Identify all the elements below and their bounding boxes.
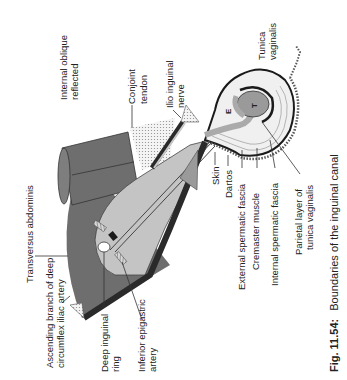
- label-dartos: Dartos: [223, 170, 234, 198]
- deep-inguinal-ring: [98, 242, 110, 252]
- svg-text:tendon: tendon: [138, 75, 149, 104]
- svg-text:reflected: reflected: [69, 64, 80, 100]
- svg-text:Fig. 11.54: Boundaries o: Fig. 11.54: Boundaries of the inguinal c…: [324, 154, 341, 372]
- label-external-spermatic-fascia: External spermatic fascia: [236, 183, 247, 290]
- ascending-branch-triangle: [70, 303, 84, 318]
- label-transversus-abdominis: Transversus abdominis: [24, 185, 35, 283]
- caption-text: Boundaries of the inguinal canal: [328, 154, 340, 311]
- scrotum: [205, 46, 300, 159]
- label-epididymis-letter: E: [224, 108, 233, 114]
- svg-text:Deep inguinal: Deep inguinal: [99, 314, 110, 372]
- label-internal-oblique: Internal oblique reflected: [58, 35, 80, 100]
- svg-text:Internal oblique: Internal oblique: [58, 35, 69, 100]
- svg-text:Conjoint: Conjoint: [126, 69, 137, 104]
- svg-text:tunica vaginalis: tunica vaginalis: [304, 185, 315, 250]
- label-conjoint-tendon: Conjoint tendon: [126, 69, 149, 104]
- caption-number: Fig. 11.54:: [328, 319, 340, 372]
- svg-text:Inferior epigastric: Inferior epigastric: [136, 299, 147, 372]
- svg-text:Ilio inguinal: Ilio inguinal: [164, 60, 175, 108]
- svg-text:Parietal layer of: Parietal layer of: [293, 189, 304, 255]
- leader-ilio-inguinal: [173, 110, 181, 118]
- label-testis-letter: T: [250, 103, 259, 108]
- label-tunica-vaginalis: Tunica vaginalis: [256, 23, 278, 60]
- svg-text:ring: ring: [110, 356, 121, 372]
- inguinal-canal-diagram: Internal oblique reflected Conjoint tend…: [0, 0, 347, 380]
- label-ascending-branch: Ascending branch of deep circumflex ilia…: [44, 258, 66, 368]
- label-skin: Skin: [210, 167, 221, 185]
- svg-text:Ascending branch of deep: Ascending branch of deep: [44, 258, 55, 368]
- svg-text:nerve: nerve: [175, 84, 186, 108]
- label-cremaster-muscle: Cremaster muscle: [250, 193, 261, 270]
- label-internal-spermatic-fascia: Internal spermatic fascia: [269, 182, 280, 286]
- figure-caption: Fig. 11.54: Boundaries of the inguinal c…: [324, 154, 341, 372]
- label-inferior-epigastric: Inferior epigastric artery: [136, 299, 158, 372]
- svg-text:artery: artery: [147, 347, 158, 372]
- svg-text:Tunica: Tunica: [256, 31, 267, 60]
- svg-text:vaginalis: vaginalis: [267, 23, 278, 60]
- svg-text:circumflex iliac artery: circumflex iliac artery: [55, 279, 66, 368]
- label-parietal-layer: Parietal layer of tunica vaginalis: [293, 185, 315, 255]
- label-ilio-inguinal-nerve: Ilio inguinal nerve: [164, 60, 186, 108]
- label-deep-inguinal-ring: Deep inguinal ring: [99, 314, 121, 372]
